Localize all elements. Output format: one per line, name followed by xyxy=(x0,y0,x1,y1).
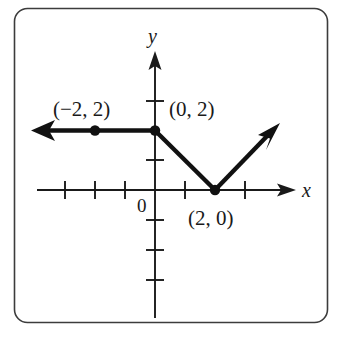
point-marker-2-0 xyxy=(210,185,220,195)
point-marker-neg2-2 xyxy=(90,125,100,135)
origin-label: 0 xyxy=(137,196,147,215)
y-axis-label: y xyxy=(148,26,157,46)
x-axis-label: x xyxy=(302,180,311,200)
left-ray-point-label: (−2, 2) xyxy=(53,99,110,120)
figure-frame xyxy=(15,9,328,323)
y-intercept-label: (0, 2) xyxy=(169,99,215,120)
figure-page: (−2, 2) (0, 2) (2, 0) y x 0 xyxy=(0,0,339,339)
vertex-label: (2, 0) xyxy=(188,208,234,229)
graph-figure xyxy=(0,0,339,339)
point-marker-0-2 xyxy=(150,125,160,135)
